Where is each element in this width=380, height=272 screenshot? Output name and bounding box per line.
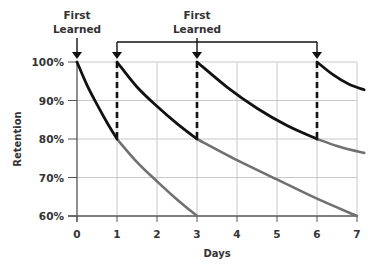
annotation-first-learned-2-line2: Learned [173, 23, 221, 35]
annotation-first-learned-1-line2: Learned [53, 23, 101, 35]
x-axis-label: Days [203, 248, 230, 259]
forgetting-curve-chart: 60%70%80%90%100%01234567 Days Retention … [0, 0, 380, 272]
x-tick-label: 7 [353, 228, 360, 240]
y-axis-label: Retention [12, 111, 23, 166]
x-tick-label: 0 [73, 228, 80, 240]
y-tick-label: 80% [39, 133, 65, 145]
y-tick-label: 100% [32, 56, 65, 68]
annotation-first-learned-2-line1: First [183, 9, 210, 21]
arrow-down-icon [72, 52, 82, 59]
y-tick-label: 60% [39, 210, 65, 222]
y-tick-label: 70% [39, 172, 65, 184]
arrow-down-icon [312, 52, 322, 59]
y-tick-label: 90% [39, 95, 65, 107]
x-tick-label: 3 [193, 228, 200, 240]
annotations [72, 38, 322, 59]
x-tick-label: 2 [153, 228, 160, 240]
arrow-down-icon [192, 52, 202, 59]
arrow-down-icon [112, 52, 122, 59]
x-tick-label: 1 [113, 228, 120, 240]
annotation-first-learned-1-line1: First [63, 9, 90, 21]
x-tick-label: 4 [233, 228, 240, 240]
x-tick-label: 6 [313, 228, 320, 240]
x-tick-label: 5 [273, 228, 280, 240]
